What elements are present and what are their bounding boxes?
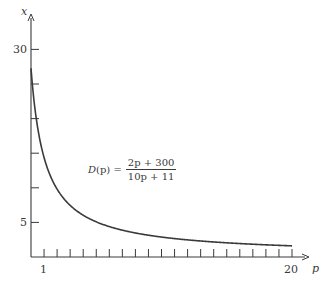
x-axis-label: p [312,262,319,275]
y-axis-label: x [21,5,28,18]
y-tick-label-30: 30 [13,43,27,56]
y-tick-label-5: 5 [20,216,27,229]
x-tick-label-1: 1 [40,263,47,276]
formula-annotation: D(p) = 2p + 300 10p + 11 [88,157,176,182]
x-tick-label-20: 20 [284,263,298,276]
formula-function-name: D [88,164,96,175]
formula-denominator: 10p + 11 [126,170,177,182]
formula-numerator: 2p + 300 [126,157,177,170]
demand-chart: x p 30 5 1 20 [0,0,327,281]
formula-fraction: 2p + 300 10p + 11 [126,157,177,182]
formula-lhs: D(p) = [88,164,122,175]
x-ticks [44,249,292,257]
formula-argument: (p) = [96,164,122,175]
